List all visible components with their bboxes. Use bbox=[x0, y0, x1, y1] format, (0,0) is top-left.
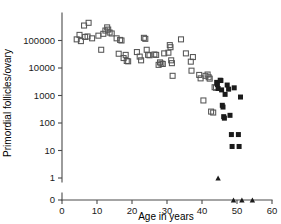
series-filled-triangle bbox=[215, 176, 220, 181]
y-axis: 1000001000010001001010 bbox=[23, 13, 62, 205]
data-point-filled-square bbox=[226, 87, 231, 92]
data-point-open-square bbox=[116, 51, 121, 56]
data-point-filled-square bbox=[230, 144, 235, 149]
data-point-filled-square bbox=[236, 132, 241, 137]
y-tick-marks bbox=[58, 41, 62, 201]
data-point-open-square bbox=[96, 33, 101, 38]
series-open-square bbox=[74, 20, 218, 115]
data-point-open-square bbox=[144, 47, 149, 52]
data-point-filled-square bbox=[218, 78, 223, 83]
x-tick-label: 40 bbox=[197, 205, 208, 216]
data-point-filled-triangle bbox=[215, 176, 220, 181]
data-point-open-square bbox=[114, 36, 119, 41]
data-point-open-square bbox=[183, 51, 188, 56]
y-tick-label: 0 bbox=[50, 194, 55, 205]
y-axis-title: Primordial follicles/ovary bbox=[2, 49, 13, 157]
y-tick-label: 100 bbox=[39, 117, 55, 128]
data-point-open-square bbox=[201, 98, 206, 103]
data-point-filled-square bbox=[223, 92, 228, 97]
scatter-chart: 1000001000010001001010 0102030405060 Age… bbox=[0, 0, 281, 224]
data-point-filled-square bbox=[237, 144, 242, 149]
y-tick-label: 100000 bbox=[23, 35, 55, 46]
y-tick-label: 10 bbox=[44, 145, 55, 156]
data-point-filled-square bbox=[222, 116, 227, 121]
data-point-filled-square bbox=[228, 113, 233, 118]
y-tick-label: 10000 bbox=[29, 62, 55, 73]
plot-canvas: 1000001000010001001010 0102030405060 Age… bbox=[0, 0, 281, 224]
x-tick-label: 20 bbox=[127, 205, 138, 216]
data-point-open-square bbox=[197, 72, 202, 77]
data-point-open-square bbox=[179, 37, 184, 42]
data-point-filled-square bbox=[219, 87, 224, 92]
data-point-filled-square bbox=[232, 85, 237, 90]
data-point-open-square bbox=[170, 73, 175, 78]
data-point-filled-square bbox=[238, 95, 243, 100]
y-tick-label: 1000 bbox=[34, 90, 55, 101]
data-point-open-square bbox=[189, 68, 194, 73]
data-point-filled-square bbox=[229, 132, 234, 137]
x-tick-label: 50 bbox=[232, 205, 243, 216]
x-tick-label: 10 bbox=[92, 205, 103, 216]
data-point-open-square bbox=[99, 47, 104, 52]
series-filled-square bbox=[214, 78, 243, 149]
data-point-open-square bbox=[198, 76, 203, 81]
series-filled-triangle-zero bbox=[231, 198, 255, 203]
y-tick-label: 1 bbox=[50, 172, 55, 183]
x-tick-label: 60 bbox=[267, 205, 278, 216]
y-tick-labels: 1000001000010001001010 bbox=[23, 35, 55, 206]
x-tick-label: 0 bbox=[59, 205, 64, 216]
data-point-filled-square bbox=[221, 105, 226, 110]
x-axis-title: Age in years bbox=[138, 211, 194, 222]
